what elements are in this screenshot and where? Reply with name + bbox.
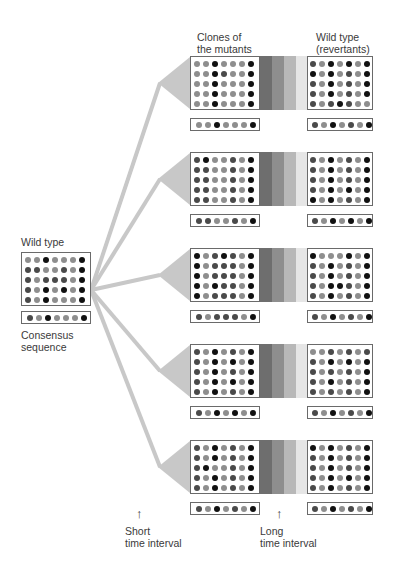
sequence-dot xyxy=(364,253,370,259)
sequence-dot xyxy=(355,369,361,375)
sequence-dot xyxy=(328,389,334,395)
sequence-dot xyxy=(346,253,352,259)
sequence-dot xyxy=(239,379,245,385)
consensus-dot xyxy=(321,314,327,320)
sequence-dot xyxy=(61,267,67,273)
sequence-dot xyxy=(239,177,245,183)
sequence-dot xyxy=(70,257,76,263)
sequence-dot xyxy=(212,157,218,163)
sequence-dot xyxy=(194,167,200,173)
consensus-dot xyxy=(214,506,220,512)
sequence-dot xyxy=(239,71,245,77)
sequence-dot xyxy=(337,187,343,193)
sequence-dot xyxy=(52,267,58,273)
sequence-dot xyxy=(221,177,227,183)
sequence-dot xyxy=(239,359,245,365)
sequence-dot xyxy=(310,61,316,67)
sequence-dot xyxy=(203,101,209,107)
sequence-dot xyxy=(310,81,316,87)
sequence-dot xyxy=(364,81,370,87)
sequence-dot xyxy=(239,167,245,173)
sequence-dot xyxy=(194,349,200,355)
sequence-dot xyxy=(61,287,67,293)
consensus-dot xyxy=(366,410,372,416)
consensus-dot xyxy=(232,314,238,320)
time-gradient-band xyxy=(272,248,284,302)
sequence-dot xyxy=(328,197,334,203)
sequence-dot xyxy=(194,61,200,67)
sequence-dot xyxy=(364,101,370,107)
sequence-dot xyxy=(319,349,325,355)
consensus-dot xyxy=(27,315,33,321)
sequence-dot xyxy=(364,157,370,163)
sequence-dot xyxy=(319,81,325,87)
sequence-dot xyxy=(364,263,370,269)
sequence-dot xyxy=(70,267,76,273)
sequence-dot xyxy=(355,157,361,163)
sequence-dot xyxy=(203,455,209,461)
sequence-dot xyxy=(212,273,218,279)
consensus-dot xyxy=(330,314,336,320)
wild-type-consensus-strip xyxy=(25,315,88,321)
mutant-consensus-strip xyxy=(194,410,257,416)
sequence-dot xyxy=(25,277,31,283)
sequence-dot xyxy=(346,61,352,67)
sequence-dot xyxy=(194,369,200,375)
sequence-dot xyxy=(319,71,325,77)
sequence-dot xyxy=(70,297,76,303)
mutant-consensus-box xyxy=(190,118,260,131)
clones-of-mutants-header: Clones of the mutants xyxy=(197,31,252,55)
sequence-dot xyxy=(203,379,209,385)
sequence-dot xyxy=(194,379,200,385)
sequence-dot xyxy=(248,263,254,269)
sequence-dot xyxy=(230,187,236,193)
consensus-dot xyxy=(312,218,318,224)
sequence-dot xyxy=(355,61,361,67)
sequence-dot xyxy=(230,273,236,279)
sequence-dot xyxy=(337,485,343,491)
revertant-consensus-box xyxy=(307,118,373,131)
sequence-dot xyxy=(319,389,325,395)
sequence-dot xyxy=(230,91,236,97)
sequence-dot xyxy=(364,197,370,203)
sequence-dot xyxy=(248,157,254,163)
sequence-dot xyxy=(337,197,343,203)
time-gradient-band xyxy=(260,440,272,494)
sequence-dot xyxy=(221,359,227,365)
revertant-grid-box xyxy=(307,56,373,110)
time-gradient-band xyxy=(284,440,296,494)
sequence-dot xyxy=(212,455,218,461)
sequence-dot xyxy=(212,389,218,395)
consensus-dot xyxy=(205,506,211,512)
sequence-dot xyxy=(203,71,209,77)
consensus-dot xyxy=(348,506,354,512)
sequence-dot xyxy=(328,369,334,375)
sequence-dot xyxy=(25,257,31,263)
sequence-dot xyxy=(239,187,245,193)
consensus-dot xyxy=(348,410,354,416)
sequence-dot xyxy=(364,71,370,77)
sequence-dot xyxy=(355,253,361,259)
consensus-dot xyxy=(366,314,372,320)
consensus-dot xyxy=(45,315,51,321)
sequence-dot xyxy=(328,81,334,87)
sequence-dot xyxy=(355,273,361,279)
sequence-dot xyxy=(194,101,200,107)
sequence-dot xyxy=(319,293,325,299)
short-interval-arrow-icon: ↑ xyxy=(136,508,143,520)
long-interval-arrow-icon: ↑ xyxy=(276,508,283,520)
sequence-dot xyxy=(194,293,200,299)
sequence-dot xyxy=(248,177,254,183)
sequence-dot xyxy=(337,81,343,87)
consensus-dot xyxy=(241,314,247,320)
sequence-dot xyxy=(346,187,352,193)
sequence-dot xyxy=(310,71,316,77)
consensus-dot xyxy=(330,506,336,512)
sequence-dot xyxy=(203,167,209,173)
sequence-dot xyxy=(310,349,316,355)
sequence-dot xyxy=(70,287,76,293)
sequence-dot xyxy=(248,369,254,375)
sequence-dot xyxy=(355,465,361,471)
mutant-consensus-box xyxy=(190,406,260,419)
sequence-dot xyxy=(310,389,316,395)
